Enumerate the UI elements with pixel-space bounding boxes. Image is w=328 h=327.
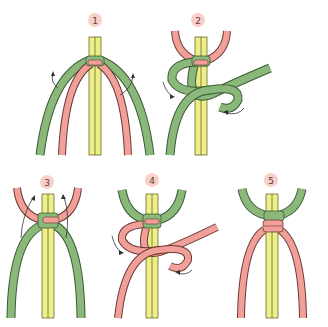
step-number-4: 4 [149,176,155,186]
step-2: 2 [163,13,270,155]
pink-cord-right [208,31,227,60]
step-4: 4 [112,173,217,318]
knot [194,60,208,65]
step-1: 1 [40,13,150,155]
pink-cord-left [175,31,194,60]
green-cord-right [56,226,81,318]
green-cord-left [242,189,265,215]
knot-diagram: 1 2 [0,0,328,327]
knot [43,217,59,223]
knot [88,60,102,65]
step-3: 3 [11,175,81,318]
green-cord-right [280,189,302,215]
step-number-5: 5 [268,176,274,186]
step-number-2: 2 [195,16,201,26]
knot [145,219,159,224]
step-number-3: 3 [44,178,50,188]
step-number-1: 1 [92,16,98,26]
step-5: 5 [241,173,303,318]
green-cord-left [122,190,146,220]
green-cord-right [158,190,182,220]
